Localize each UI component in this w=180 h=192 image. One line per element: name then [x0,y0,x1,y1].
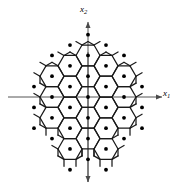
lattice-point-outer [122,54,126,58]
lattice-point-center [68,64,72,68]
lattice-point-outer [68,168,72,172]
lattice-point-outer [32,126,36,130]
lattice-point-center [68,126,72,130]
axis-label-x2: x2 [80,5,87,14]
lattice-point-center [122,95,126,99]
lattice-point-center [68,105,72,109]
lattice-point-center [104,64,108,68]
lattice-edge-stub [34,94,40,98]
lattice-point-center [86,137,90,141]
lattice-point-outer [32,85,36,89]
lattice-edge-stub [118,145,124,149]
lattice-point-center [86,74,90,78]
lattice-point-center [86,95,90,99]
lattice-point-center [50,95,54,99]
lattice-point-outer [140,105,144,109]
lattice-point-center [122,74,126,78]
lattice-edge-stub [112,52,118,56]
lattice-point-outer [68,43,72,47]
lattice-point-outer [140,85,144,89]
lattice-point-center [86,54,90,58]
lattice-point-outer [50,137,54,141]
lattice-point-outer [32,105,36,109]
lattice-point-center [104,85,108,89]
lattice-edge-stub [136,73,142,77]
axis-label-x2-subscript: 2 [84,8,87,15]
lattice-point-center [50,116,54,120]
hexagonal-lattice-figure: x2 x1 [0,0,180,192]
lattice-point-center [68,147,72,151]
lattice-point-center [86,116,90,120]
lattice-edge-stub [130,62,136,66]
axis-label-x1-subscript: 1 [167,92,170,99]
lattice-point-center [104,105,108,109]
lattice-edge-stub [136,94,142,98]
lattice-point-center [50,74,54,78]
lattice-edge-stub [94,42,100,46]
lattice-point-outer [86,33,90,37]
axes-layer [8,22,162,182]
axis-label-x1: x1 [163,89,170,98]
lattice-edge-stub [52,145,58,149]
lattice-edge-stub [58,52,64,56]
lattice-point-outer [104,168,108,172]
lattice-edge-stub [136,114,142,118]
lattice-point-center [122,116,126,120]
lattice-point-outer [86,157,90,161]
lattice-edge-stub [76,42,82,46]
lattice-svg [0,0,180,192]
lattice-edge-stub [40,62,46,66]
lattice-point-outer [140,126,144,130]
lattice-point-outer [104,43,108,47]
lattice-point-center [104,147,108,151]
lattice-point-center [104,126,108,130]
lattice-edge-stub [34,73,40,77]
lattice-edge-stub [34,114,40,118]
lattice-point-outer [50,54,54,58]
lattice-point-outer [122,137,126,141]
lattice-point-center [68,85,72,89]
